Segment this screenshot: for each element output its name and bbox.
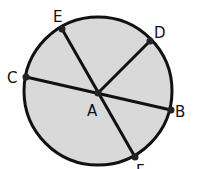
point-b — [168, 107, 175, 114]
point-e — [59, 26, 66, 33]
label-b: B — [175, 103, 185, 121]
point-f — [132, 154, 139, 161]
label-e: E — [53, 8, 62, 26]
point-a — [95, 90, 102, 97]
label-a: A — [87, 102, 98, 120]
point-d — [147, 38, 154, 45]
circle-diagram: A B C D E F — [0, 0, 197, 169]
label-f: F — [136, 162, 145, 169]
label-c: C — [7, 69, 17, 87]
label-d: D — [154, 24, 166, 42]
point-c — [23, 74, 30, 81]
